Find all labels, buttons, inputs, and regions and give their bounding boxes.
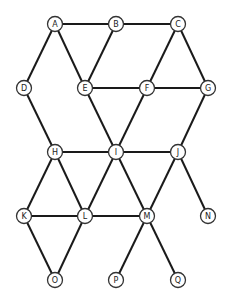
edge-l-o: [55, 216, 85, 280]
node-label: Q: [175, 276, 181, 285]
edge-f-i: [116, 88, 147, 152]
node-c: C: [171, 17, 186, 32]
node-label: A: [52, 20, 58, 29]
node-label: J: [176, 148, 179, 157]
node-label: G: [205, 84, 211, 93]
node-b: B: [109, 17, 124, 32]
node-label: E: [82, 84, 87, 93]
node-label: I: [115, 148, 117, 157]
edge-a-e: [55, 24, 85, 88]
node-p: P: [109, 273, 124, 288]
node-g: G: [201, 81, 216, 96]
graph-diagram: ABCDEFGHIJKLMNOPQ: [0, 0, 231, 306]
edge-h-l: [55, 152, 85, 216]
edge-h-k: [24, 152, 55, 216]
node-q: Q: [171, 273, 186, 288]
node-i: I: [109, 145, 124, 160]
node-label: D: [21, 84, 27, 93]
edge-i-l: [85, 152, 116, 216]
edge-j-n: [178, 152, 208, 216]
edge-m-q: [147, 216, 178, 280]
edge-b-e: [85, 24, 116, 88]
node-label: H: [52, 148, 58, 157]
edge-g-j: [178, 88, 208, 152]
node-label: B: [113, 20, 119, 29]
edge-j-m: [147, 152, 178, 216]
node-label: L: [83, 212, 88, 221]
node-h: H: [48, 145, 63, 160]
node-label: F: [145, 84, 150, 93]
node-f: F: [140, 81, 155, 96]
edge-c-f: [147, 24, 178, 88]
node-a: A: [48, 17, 63, 32]
node-n: N: [201, 209, 216, 224]
node-l: L: [78, 209, 93, 224]
node-m: M: [140, 209, 155, 224]
node-label: N: [205, 212, 211, 221]
edge-i-m: [116, 152, 147, 216]
edge-k-o: [24, 216, 55, 280]
node-label: P: [114, 276, 119, 285]
edge-m-p: [116, 216, 147, 280]
edge-a-d: [24, 24, 55, 88]
node-j: J: [171, 145, 186, 160]
node-k: K: [17, 209, 32, 224]
node-label: K: [21, 212, 27, 221]
node-label: C: [175, 20, 181, 29]
edge-d-h: [24, 88, 55, 152]
node-e: E: [78, 81, 93, 96]
edge-c-g: [178, 24, 208, 88]
node-label: O: [52, 276, 58, 285]
node-d: D: [17, 81, 32, 96]
node-label: M: [144, 212, 151, 221]
nodes-layer: ABCDEFGHIJKLMNOPQ: [17, 17, 216, 288]
edge-e-i: [85, 88, 116, 152]
node-o: O: [48, 273, 63, 288]
